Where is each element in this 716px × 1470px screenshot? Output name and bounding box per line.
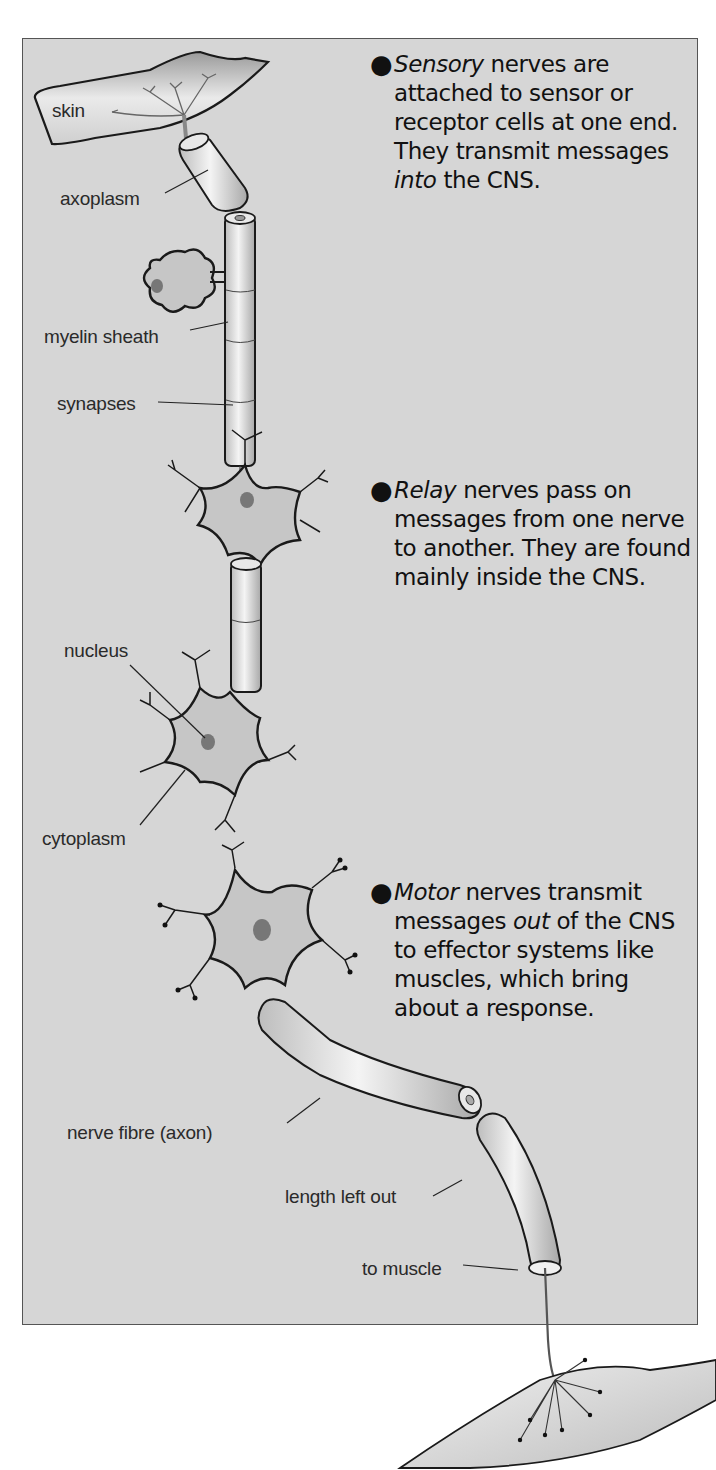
label-length-left-out: length left out: [285, 1186, 396, 1208]
label-nerve-fibre: nerve fibre (axon): [67, 1122, 212, 1144]
label-synapses: synapses: [57, 393, 136, 415]
note-sensory: ● Sensory nerves are attached to sensor …: [394, 50, 694, 195]
label-axoplasm: axoplasm: [60, 188, 140, 210]
relay-neuron-lower: [140, 650, 296, 832]
nerve-illustration: [0, 0, 716, 1470]
note-sensory-emphasis2: into: [394, 167, 436, 193]
muscle-shape: [400, 1358, 716, 1468]
note-relay-emphasis: Relay: [394, 477, 456, 503]
label-to-muscle: to muscle: [362, 1258, 442, 1280]
label-skin: skin: [52, 100, 85, 122]
bullet-icon: ●: [370, 878, 392, 907]
note-motor: ● Motor nerves transmit messages out of …: [394, 878, 694, 1023]
label-nucleus: nucleus: [64, 640, 128, 662]
note-sensory-text2: the CNS.: [436, 167, 540, 193]
label-cytoplasm: cytoplasm: [42, 828, 126, 850]
note-motor-emphasis: Motor: [394, 879, 458, 905]
note-relay: ● Relay nerves pass on messages from one…: [394, 476, 694, 592]
note-sensory-emphasis: Sensory: [394, 51, 484, 77]
skin-shape: [35, 52, 268, 144]
label-myelin-sheath: myelin sheath: [44, 326, 159, 348]
motor-neuron: [158, 842, 358, 1001]
bullet-icon: ●: [370, 50, 392, 79]
bullet-icon: ●: [370, 476, 392, 505]
note-motor-emphasis2: out: [513, 908, 549, 934]
